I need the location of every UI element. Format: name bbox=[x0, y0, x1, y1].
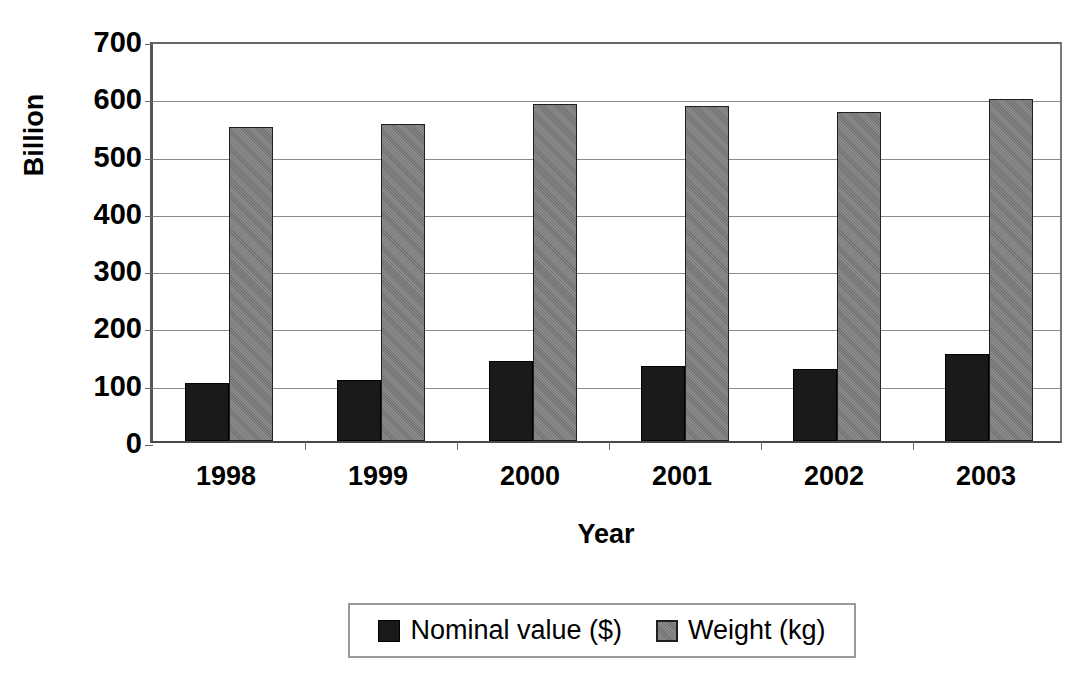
bar bbox=[837, 112, 881, 441]
gridline bbox=[153, 330, 1060, 331]
y-axis-tick-mark bbox=[145, 273, 153, 274]
y-axis-tick-labels: 7006005004003002001000 bbox=[56, 42, 142, 443]
gridline bbox=[153, 273, 1060, 274]
y-axis-tick-label: 500 bbox=[56, 142, 142, 171]
x-axis-tick-label: 2001 bbox=[652, 455, 712, 497]
y-axis-tick-mark bbox=[145, 388, 153, 389]
chart-legend: Nominal value ($)Weight (kg) bbox=[348, 603, 856, 658]
bar bbox=[533, 104, 577, 441]
x-axis-tick-label: 1998 bbox=[196, 455, 256, 497]
x-axis-tick-mark bbox=[305, 441, 306, 450]
black-square-icon bbox=[378, 620, 400, 642]
x-axis-tick-mark bbox=[761, 441, 762, 450]
y-axis-tick-mark bbox=[145, 216, 153, 217]
bar bbox=[945, 354, 989, 441]
bar-group bbox=[945, 44, 1033, 441]
legend-entry: Weight (kg) bbox=[656, 617, 826, 644]
bar-group bbox=[489, 44, 577, 441]
gridline bbox=[153, 101, 1060, 102]
bar bbox=[685, 106, 729, 441]
bar-group bbox=[793, 44, 881, 441]
bar bbox=[185, 383, 229, 441]
y-axis-title: Billion bbox=[14, 60, 54, 210]
y-axis-tick-mark bbox=[145, 330, 153, 331]
legend-label: Weight (kg) bbox=[688, 617, 826, 644]
legend-label: Nominal value ($) bbox=[410, 617, 622, 644]
y-axis-tick-mark bbox=[145, 44, 153, 45]
x-axis-tick-labels: 199819992000200120022003 bbox=[150, 455, 1062, 497]
y-axis-tick-mark bbox=[145, 159, 153, 160]
gray-square-icon bbox=[656, 620, 678, 642]
x-axis-tick-mark bbox=[609, 441, 610, 450]
x-axis-tick-label: 2003 bbox=[956, 455, 1016, 497]
y-axis-tick-mark bbox=[145, 101, 153, 102]
x-axis-tick-mark bbox=[457, 441, 458, 450]
y-axis-tick-label: 700 bbox=[56, 28, 142, 57]
bar-group bbox=[337, 44, 425, 441]
x-axis-tick-label: 2002 bbox=[804, 455, 864, 497]
x-axis-title: Year bbox=[150, 519, 1062, 550]
bar bbox=[989, 99, 1033, 441]
legend-entry: Nominal value ($) bbox=[378, 617, 622, 644]
bar bbox=[641, 366, 685, 441]
bar bbox=[229, 127, 273, 441]
bar bbox=[381, 124, 425, 441]
bar-group bbox=[185, 44, 273, 441]
y-axis-tick-label: 300 bbox=[56, 257, 142, 286]
y-axis-tick-label: 600 bbox=[56, 85, 142, 114]
bar bbox=[489, 361, 533, 441]
x-axis-tick-mark bbox=[913, 441, 914, 450]
bar bbox=[793, 369, 837, 441]
x-axis-tick-label: 1999 bbox=[348, 455, 408, 497]
gridline bbox=[153, 216, 1060, 217]
bar-chart-figure: Billion 7006005004003002001000 199819992… bbox=[0, 0, 1088, 690]
gridline bbox=[153, 388, 1060, 389]
gridline bbox=[153, 159, 1060, 160]
y-axis-tick-label: 0 bbox=[56, 429, 142, 458]
x-axis-tick-label: 2000 bbox=[500, 455, 560, 497]
bar bbox=[337, 380, 381, 441]
plot-area bbox=[150, 42, 1062, 443]
bar-group bbox=[641, 44, 729, 441]
y-axis-tick-mark bbox=[145, 445, 153, 446]
y-axis-tick-label: 100 bbox=[56, 371, 142, 400]
y-axis-tick-label: 200 bbox=[56, 314, 142, 343]
y-axis-tick-label: 400 bbox=[56, 199, 142, 228]
